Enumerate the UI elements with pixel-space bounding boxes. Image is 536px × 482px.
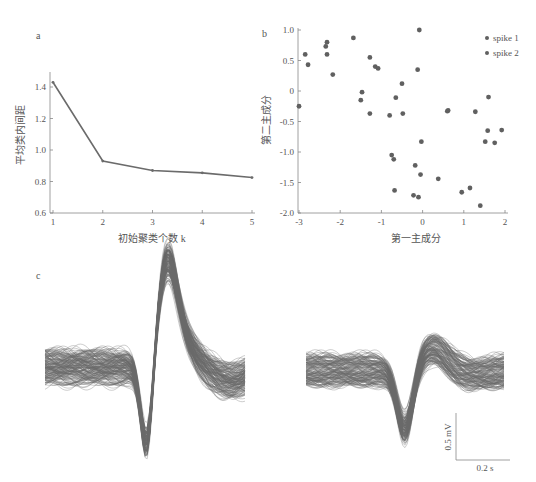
panel-b-legend: spike 1 spike 2 [485, 33, 519, 58]
scatter-point [376, 66, 381, 71]
legend-label-spike-1: spike 1 [493, 33, 519, 43]
scatter-point [416, 195, 421, 200]
panel-a-x-tick-label: 5 [250, 217, 255, 227]
panel-b-x-tick-label: 1 [462, 217, 467, 227]
panel-b-y-tick-label: 1.0 [283, 25, 295, 35]
scatter-point [393, 95, 398, 100]
scatter-point [459, 190, 464, 195]
panel-b-y-axis-label: 第二主成分 [260, 95, 272, 145]
scatter-point [297, 104, 302, 109]
panel-b-y-tick-label: -0.5 [280, 117, 295, 127]
panel-a-line-chart: 0.60.81.01.21.412345 初始聚类个数 k 平均类内间距 [14, 72, 255, 244]
panel-a-series-line [53, 82, 252, 177]
panel-a-y-tick-label: 0.6 [35, 208, 47, 218]
scatter-point [391, 157, 396, 162]
panel-a-y-tick-label: 0.8 [35, 177, 47, 187]
legend-label-spike-2: spike 2 [493, 48, 519, 58]
scatter-point [303, 52, 308, 57]
panel-b-axes: 1.00.50-0.5-1.0-1.5-2.0-3-2-1012 [280, 25, 508, 227]
panel-a-x-tick-label: 2 [101, 217, 106, 227]
scatter-point [351, 36, 356, 41]
panel-b-y-tick-label: 0 [290, 86, 295, 96]
panel-b-points [297, 28, 505, 208]
scatter-point [330, 72, 335, 77]
scatter-point [325, 40, 330, 45]
panel-b-y-tick-label: -2.0 [280, 208, 295, 218]
scatter-point [325, 52, 330, 57]
panel-b-y-tick-label: -1.0 [280, 147, 295, 157]
scatter-point [358, 98, 363, 103]
panel-c-waveforms: 0.5 mV 0.2 s [45, 238, 510, 473]
panel-b-y-tick-label: 0.5 [283, 56, 295, 66]
spike-1-waveforms [45, 238, 245, 458]
scatter-point [419, 139, 424, 144]
panel-a-x-tick-label: 3 [150, 217, 155, 227]
scatter-point [485, 128, 490, 133]
scatter-point [392, 188, 397, 193]
scatter-point [417, 28, 422, 33]
scatter-point [468, 186, 473, 191]
legend-marker-spike-1 [485, 36, 489, 40]
panel-a-y-tick-label: 1.2 [35, 114, 46, 124]
scatter-point [389, 153, 394, 158]
scatter-point [492, 140, 497, 145]
panel-b-x-tick-label: -3 [295, 217, 303, 227]
panel-a-axes: 0.60.81.01.21.412345 [35, 72, 255, 227]
scale-bar-vertical-label: 0.5 mV [443, 423, 453, 451]
scatter-point [486, 95, 491, 100]
panel-b-x-tick-label: -1 [378, 217, 386, 227]
panel-a-x-axis-label: 初始聚类个数 k [118, 232, 186, 244]
scatter-point [367, 55, 372, 60]
panel-b-y-tick-label: -1.5 [280, 178, 295, 188]
scatter-point [436, 176, 441, 181]
panel-b-x-tick-label: 2 [503, 217, 508, 227]
scatter-point [446, 108, 451, 113]
scale-bar-horizontal-label: 0.2 s [476, 463, 494, 473]
scatter-point [415, 67, 420, 72]
scatter-point [413, 163, 418, 168]
panel-b-scatter-chart: 1.00.50-0.5-1.0-1.5-2.0-3-2-1012 spike 1… [260, 25, 519, 244]
panel-a-y-tick-label: 1.0 [35, 145, 47, 155]
scatter-point [478, 203, 483, 208]
panel-b-x-tick-label: 0 [420, 217, 425, 227]
scatter-point [360, 90, 365, 95]
scatter-point [367, 111, 372, 116]
scatter-point [418, 172, 423, 177]
scatter-point [387, 113, 392, 118]
panel-a-x-tick-label: 1 [51, 217, 56, 227]
panel-a-y-axis-label: 平均类内间距 [14, 105, 26, 165]
legend-marker-spike-2 [485, 51, 489, 55]
panel-b-x-tick-label: -2 [336, 217, 344, 227]
scatter-point [483, 139, 488, 144]
scatter-point [306, 62, 311, 67]
scatter-point [400, 111, 405, 116]
spike-2-waveforms [306, 333, 504, 448]
scatter-point [499, 128, 504, 133]
scatter-point [411, 193, 416, 198]
scatter-point [473, 109, 478, 114]
scatter-point [400, 81, 405, 86]
scatter-point [323, 44, 328, 49]
panel-a-x-tick-label: 4 [200, 217, 205, 227]
figure-canvas: 0.60.81.01.21.412345 初始聚类个数 k 平均类内间距 1.0… [0, 0, 536, 482]
panel-a-y-tick-label: 1.4 [35, 82, 47, 92]
panel-a-markers [52, 81, 254, 179]
panel-b-x-axis-label: 第一主成分 [391, 232, 441, 244]
scale-bar: 0.5 mV 0.2 s [443, 413, 510, 473]
